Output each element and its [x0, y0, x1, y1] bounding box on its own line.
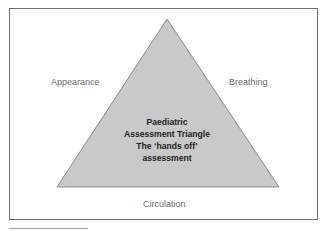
title-line-4: assessment	[100, 152, 234, 164]
label-appearance: Appearance	[51, 77, 100, 87]
triangle-title: Paediatric Assessment Triangle The ‘hand…	[100, 116, 234, 164]
label-circulation: Circulation	[143, 199, 186, 209]
title-line-1: Paediatric	[100, 116, 234, 128]
title-line-2: Assessment Triangle	[100, 128, 234, 140]
footnote-rule	[9, 228, 88, 229]
label-breathing: Breathing	[229, 77, 268, 87]
title-line-3: The ‘hands off’	[100, 140, 234, 152]
